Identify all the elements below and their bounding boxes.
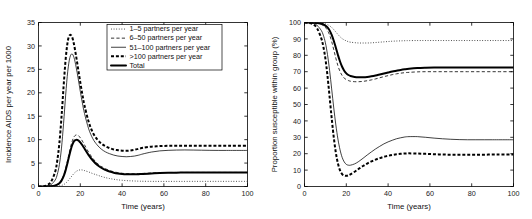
y-tick-label: 30 [27, 42, 35, 51]
legend-label: Total [130, 61, 146, 70]
y-tick-label: 0 [31, 182, 35, 191]
y-tick-label: 10 [27, 135, 35, 144]
legend: 1–5 partners per year6–50 partners per y… [107, 24, 222, 70]
left-plot-svg: 05101520253035020406080100Time (years)In… [0, 0, 266, 219]
y-tick-label: 30 [293, 133, 301, 142]
y-tick-label: 50 [293, 100, 301, 109]
x-tick-label: 80 [468, 189, 476, 198]
y-tick-label: 35 [27, 18, 35, 27]
y-tick-label: 60 [293, 84, 301, 93]
x-tick-label: 100 [508, 189, 520, 198]
x-tick-label: 40 [118, 189, 126, 198]
x-tick-label: 20 [342, 189, 350, 198]
right-plot-svg: 0102030405060708090100020406080100Time (… [266, 0, 532, 219]
x-tick-label: 60 [160, 189, 168, 198]
legend-label: 6–50 partners per year [130, 33, 203, 42]
y-tick-label: 20 [27, 88, 35, 97]
x-axis-title: Time (years) [387, 202, 431, 211]
curve-solid [39, 54, 248, 187]
legend-label: >100 partners per year [130, 52, 204, 61]
panel-left: 05101520253035020406080100Time (years)In… [0, 0, 266, 219]
y-axis-title: Incidence AIDS per year per 1000 [4, 45, 13, 163]
y-tick-label: 100 [289, 18, 301, 27]
x-tick-label: 60 [426, 189, 434, 198]
y-tick-label: 25 [27, 65, 35, 74]
legend-label: 51–100 partners per year [130, 43, 211, 52]
x-tick-label: 0 [37, 189, 41, 198]
y-tick-label: 15 [27, 112, 35, 121]
curves-group [305, 22, 514, 175]
y-tick-label: 80 [293, 51, 301, 60]
x-tick-label: 20 [76, 189, 84, 198]
panel-right: 0102030405060708090100020406080100Time (… [266, 0, 532, 219]
figure-container: 05101520253035020406080100Time (years)In… [0, 0, 532, 219]
y-tick-label: 40 [293, 117, 301, 126]
y-tick-label: 10 [293, 166, 301, 175]
x-tick-label: 100 [242, 189, 254, 198]
y-tick-label: 5 [31, 159, 35, 168]
legend-label: 1–5 partners per year [130, 24, 199, 33]
x-tick-label: 0 [303, 189, 307, 198]
curve-dashed [305, 22, 514, 81]
y-tick-label: 70 [293, 67, 301, 76]
y-tick-label: 0 [297, 182, 301, 191]
y-axis-title: Proportion susceptible within group (%) [270, 36, 279, 172]
x-axis-title: Time (years) [121, 202, 165, 211]
curve-thick-solid [305, 22, 514, 77]
curve-thick-solid [39, 140, 248, 187]
x-tick-label: 80 [202, 189, 210, 198]
curve-dotted [305, 22, 514, 43]
x-tick-label: 40 [384, 189, 392, 198]
y-tick-label: 90 [293, 35, 301, 44]
curve-solid [305, 23, 514, 166]
y-tick-label: 20 [293, 149, 301, 158]
